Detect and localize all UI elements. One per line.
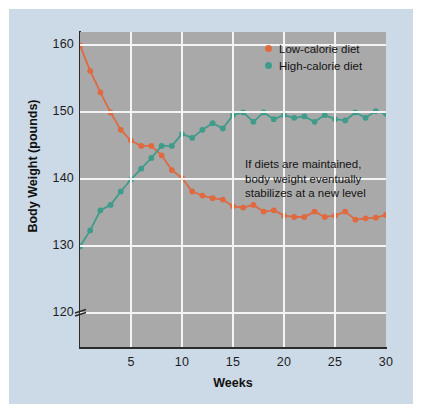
x-tick-10: 10: [165, 355, 199, 369]
x-tick-5: 5: [114, 355, 148, 369]
data-point: [149, 155, 155, 161]
data-point: [220, 197, 226, 203]
data-point: [118, 127, 124, 133]
data-point: [87, 68, 93, 74]
y-tick-140: 140: [40, 171, 74, 185]
x-tick-30: 30: [369, 355, 403, 369]
gridline-x-5: [130, 32, 132, 347]
data-point: [98, 207, 104, 213]
data-point: [291, 115, 297, 121]
data-point: [312, 119, 318, 125]
x-axis-title: Weeks: [80, 376, 386, 390]
data-point: [189, 135, 195, 141]
data-point: [261, 209, 267, 215]
data-point: [271, 116, 277, 122]
data-point: [312, 209, 318, 215]
y-tick-130: 130: [40, 238, 74, 252]
data-point: [138, 166, 144, 172]
legend-label-low-calorie: Low-calorie diet: [279, 43, 360, 55]
y-axis-title: Body Weight (pounds): [26, 86, 40, 246]
plot-area: Low-calorie diet High-calorie diet If di…: [80, 32, 386, 347]
data-point: [302, 114, 308, 120]
data-point: [383, 212, 386, 218]
x-tick-25: 25: [318, 355, 352, 369]
y-tick-160: 160: [40, 37, 74, 51]
y-axis-tick-labels: 160150140130120: [34, 32, 74, 347]
chart-legend: Low-calorie diet High-calorie diet: [265, 40, 362, 74]
data-point: [189, 189, 195, 195]
data-point: [342, 209, 348, 215]
chart-figure: Low-calorie diet High-calorie diet If di…: [9, 9, 413, 404]
chart-annotation: If diets are maintained, body weight eve…: [245, 157, 366, 201]
data-point: [159, 152, 165, 158]
data-point: [251, 119, 257, 125]
x-tick-15: 15: [216, 355, 250, 369]
data-point: [210, 120, 216, 126]
data-point: [169, 167, 175, 173]
axis-break-icon: [73, 305, 89, 319]
data-point: [169, 143, 175, 149]
data-point: [322, 214, 328, 220]
data-point: [363, 115, 369, 121]
x-axis-line: [79, 347, 387, 349]
data-point: [373, 215, 379, 221]
data-point: [149, 143, 155, 149]
data-point: [200, 127, 206, 133]
data-point: [210, 195, 216, 201]
data-point: [98, 89, 104, 95]
data-point: [240, 205, 246, 211]
data-point: [291, 214, 297, 220]
legend-label-high-calorie: High-calorie diet: [279, 60, 362, 72]
data-point: [108, 202, 114, 208]
data-point: [302, 214, 308, 220]
legend-marker-low-calorie: [265, 45, 272, 52]
data-point: [363, 215, 369, 221]
data-point: [220, 126, 226, 132]
data-point: [118, 189, 124, 195]
data-point: [200, 193, 206, 199]
x-tick-20: 20: [267, 355, 301, 369]
data-point: [271, 207, 277, 213]
data-point: [87, 227, 93, 233]
y-tick-120: 120: [40, 305, 74, 319]
legend-item-high-calorie: High-calorie diet: [265, 57, 362, 74]
y-tick-150: 150: [40, 104, 74, 118]
data-point: [353, 217, 359, 223]
data-point: [138, 143, 144, 149]
data-point: [159, 143, 165, 149]
x-axis-tick-labels: 51015202530: [80, 351, 386, 373]
data-point: [251, 202, 257, 208]
data-point: [342, 118, 348, 124]
gridline-x-15: [232, 32, 234, 347]
legend-marker-high-calorie: [265, 62, 272, 69]
gridline-x-10: [181, 32, 183, 347]
legend-item-low-calorie: Low-calorie diet: [265, 40, 362, 57]
